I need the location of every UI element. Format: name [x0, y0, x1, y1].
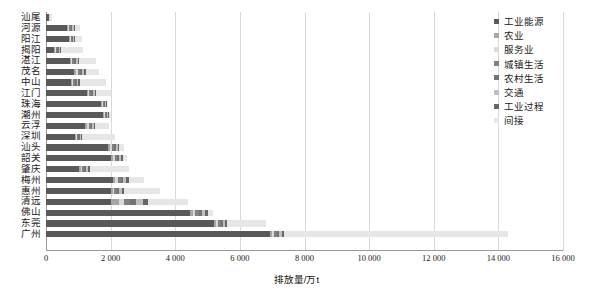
stacked-bar [46, 47, 83, 53]
chart-legend: 工业能源农业服务业城镇生活农村生活交通工业过程间接 [494, 14, 544, 128]
legend-item[interactable]: 农业 [494, 28, 544, 42]
legend-item[interactable]: 服务业 [494, 42, 544, 56]
category-label: 韶关 [0, 153, 44, 164]
bar-row [46, 34, 563, 45]
legend-label: 农业 [504, 28, 524, 42]
legend-item[interactable]: 城镇生活 [494, 57, 544, 71]
bar-row [46, 110, 563, 121]
x-tick-label: 8 000 [295, 253, 314, 263]
legend-swatch-icon [494, 61, 499, 66]
legend-label: 服务业 [504, 42, 534, 56]
legend-label: 工业过程 [504, 99, 544, 113]
stacked-bar [46, 177, 144, 183]
stacked-bar [46, 220, 266, 226]
bar-segment [79, 58, 96, 64]
x-axis-title: 排放量/万t [0, 272, 593, 286]
stacked-bar [46, 155, 127, 161]
category-label: 阳江 [0, 34, 44, 45]
bar-segment [86, 69, 99, 75]
stacked-bar [46, 101, 108, 107]
bar-row [46, 175, 563, 186]
bar-segment [119, 144, 123, 150]
bar-segment [46, 188, 111, 194]
stacked-bar [46, 58, 96, 64]
bar-row [46, 196, 563, 207]
stacked-bar [46, 123, 109, 129]
stacked-bar [46, 36, 82, 42]
bar-row [46, 12, 563, 23]
bar-row [46, 229, 563, 240]
stacked-bar [46, 69, 99, 75]
bar-row [46, 131, 563, 142]
category-label: 河源 [0, 23, 44, 34]
bar-row [46, 120, 563, 131]
stacked-bar [46, 14, 52, 20]
legend-swatch-icon [494, 75, 499, 80]
bar-segment [107, 101, 108, 107]
bar-segment [46, 25, 67, 31]
category-label: 湛江 [0, 55, 44, 66]
bar-row [46, 88, 563, 99]
legend-swatch-icon [494, 19, 499, 24]
x-axis-ticks: 02 0004 0006 0008 00010 00012 00014 0001… [46, 253, 563, 267]
plot-area [46, 12, 563, 251]
category-label: 中山 [0, 77, 44, 88]
category-label: 东莞 [0, 218, 44, 229]
x-tick-label: 14 000 [487, 253, 510, 263]
stacked-bar [46, 79, 106, 85]
bar-segment [136, 199, 143, 205]
category-label: 茂名 [0, 66, 44, 77]
stacked-bar-chart: 汕尾河源阳江揭阳湛江茂名中山江门珠海潮州云浮深圳汕头韶关肇庆梅州惠州清远佛山东莞… [0, 0, 593, 294]
x-tick-label: 16 000 [551, 253, 574, 263]
bar-segment [124, 188, 160, 194]
legend-item[interactable]: 农村生活 [494, 71, 544, 85]
legend-item[interactable]: 工业能源 [494, 14, 544, 28]
x-tick-label: 6 000 [230, 253, 249, 263]
bar-segment [95, 123, 108, 129]
bar-row [46, 77, 563, 88]
legend-item[interactable]: 交通 [494, 85, 544, 99]
stacked-bar [46, 188, 160, 194]
stacked-bar [46, 199, 188, 205]
legend-swatch-icon [494, 118, 499, 123]
bar-segment [109, 112, 111, 118]
x-tick-label: 10 000 [357, 253, 380, 263]
category-label: 佛山 [0, 207, 44, 218]
legend-label: 农村生活 [504, 71, 544, 85]
legend-item[interactable]: 工业过程 [494, 99, 544, 113]
bar-segment [80, 79, 106, 85]
stacked-bar [46, 25, 80, 31]
bar-segment [227, 220, 266, 226]
legend-swatch-icon [494, 47, 499, 52]
bar-row [46, 164, 563, 175]
bar-segment [46, 123, 85, 129]
bar-row [46, 218, 563, 229]
bar-segment [111, 199, 119, 205]
x-tick-label: 2 000 [101, 253, 120, 263]
x-tick-label: 4 000 [166, 253, 185, 263]
bar-segment [46, 231, 270, 237]
bar-segment [50, 14, 51, 20]
category-label: 惠州 [0, 186, 44, 197]
gridline [563, 12, 564, 251]
bar-segment [46, 101, 101, 107]
bar-segment [46, 79, 71, 85]
stacked-bar [46, 134, 115, 140]
bar-segment [46, 69, 74, 75]
category-label: 汕头 [0, 142, 44, 153]
bar-row [46, 55, 563, 66]
bar-row [46, 142, 563, 153]
bar-row [46, 66, 563, 77]
bar-segment [148, 199, 188, 205]
stacked-bar [46, 231, 508, 237]
category-axis: 汕尾河源阳江揭阳湛江茂名中山江门珠海潮州云浮深圳汕头韶关肇庆梅州惠州清远佛山东莞… [0, 12, 44, 240]
bar-segment [46, 58, 70, 64]
bar-segment [46, 47, 54, 53]
legend-item[interactable]: 间接 [494, 113, 544, 127]
category-label: 梅州 [0, 175, 44, 186]
stacked-bar [46, 90, 111, 96]
stacked-bar [46, 112, 111, 118]
bar-row [46, 99, 563, 110]
category-label: 江门 [0, 88, 44, 99]
category-label: 潮州 [0, 110, 44, 121]
